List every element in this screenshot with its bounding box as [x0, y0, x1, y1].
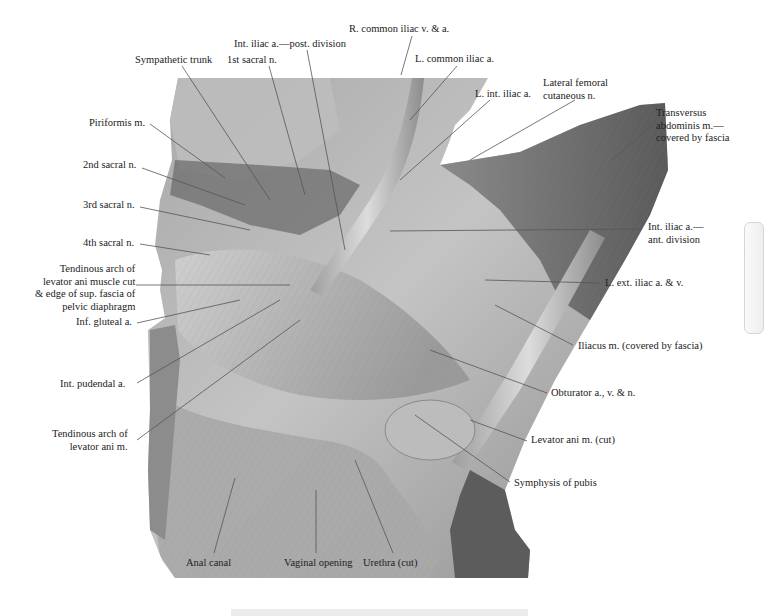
label-l-common-iliac: L. common iliac a. — [415, 53, 494, 66]
label-tendinous-arch: Tendinous arch of levator ani m. — [52, 428, 128, 453]
label-4th-sacral: 4th sacral n. — [83, 237, 134, 250]
label-sympathetic-trunk: Sympathetic trunk — [135, 54, 212, 67]
label-iliacus: Iliacus m. (covered by fascia) — [578, 340, 702, 353]
label-anal-canal: Anal canal — [186, 557, 231, 570]
side-tab[interactable] — [744, 222, 764, 334]
label-1st-sacral: 1st sacral n. — [227, 54, 277, 67]
leader-line-r-common-iliac — [401, 36, 412, 75]
label-transversus: Transversus abdominis m.— covered by fas… — [656, 107, 729, 145]
label-symphysis: Symphysis of pubis — [514, 477, 597, 490]
label-int-iliac-post: Int. iliac a.—post. division — [234, 38, 346, 51]
pubic-symphysis — [385, 400, 475, 460]
label-obturator: Obturator a., v. & n. — [551, 387, 635, 400]
label-r-common-iliac: R. common iliac v. & a. — [349, 23, 449, 36]
specimen — [148, 78, 668, 578]
label-lat-femoral-cut: Lateral femoral cutaneous n. — [543, 77, 608, 102]
label-int-iliac-ant: Int. iliac a.— ant. division — [648, 221, 703, 246]
bottom-scroll-bar[interactable] — [231, 609, 528, 616]
label-inf-gluteal: Inf. gluteal a. — [76, 316, 132, 329]
label-urethra: Urethra (cut) — [363, 557, 418, 570]
label-piriformis: Piriformis m. — [89, 117, 145, 130]
label-vaginal-opening: Vaginal opening — [284, 557, 353, 570]
label-2nd-sacral: 2nd sacral n. — [83, 159, 136, 172]
label-levator-ani-cut: Levator ani m. (cut) — [531, 434, 615, 447]
label-tendinous-arch-cut: Tendinous arch of levator ani muscle cut… — [35, 263, 135, 313]
label-int-pudendal: Int. pudendal a. — [60, 378, 125, 391]
label-3rd-sacral: 3rd sacral n. — [83, 199, 135, 212]
label-l-ext-iliac: L. ext. iliac a. & v. — [605, 277, 683, 290]
label-l-int-iliac: L. int. iliac a. — [475, 88, 531, 101]
